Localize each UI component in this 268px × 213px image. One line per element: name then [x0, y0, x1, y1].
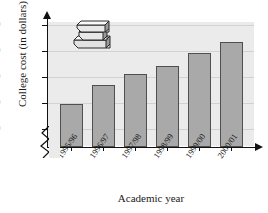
stack-of-books-icon	[66, 19, 116, 51]
y-tick-mark-4250	[42, 103, 48, 104]
x-axis-arrow-icon	[255, 143, 263, 151]
zigzag-axis-break-icon	[36, 126, 60, 158]
y-axis-arrow-icon	[43, 11, 51, 19]
y-tick-mark-5000	[42, 25, 48, 26]
y-tick-mark-4500	[42, 77, 48, 78]
y-axis-title: College cost (in dollars)	[16, 0, 28, 118]
bar-chart: 5000 4750 4500 4250 4000 1995/96 1996/97…	[0, 0, 268, 213]
y-tick-mark-4750	[42, 51, 48, 52]
x-axis-title: Academic year	[48, 192, 254, 204]
